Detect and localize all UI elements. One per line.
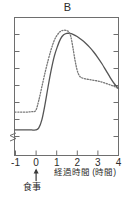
series-group — [15, 30, 119, 130]
y-axis-ticks-left — [15, 35, 20, 137]
x-tick-label-0: -1 — [9, 157, 23, 168]
meal-arrow-icon — [34, 169, 39, 182]
x-axis-ticks — [16, 151, 119, 156]
x-tick-label-1: 0 — [29, 157, 43, 168]
series-dotted-curve — [15, 30, 119, 112]
x-axis-title: 経過時間 (時間) — [54, 167, 116, 178]
chart-figure: B — [0, 0, 135, 209]
series-solid-curve — [15, 33, 119, 130]
meal-annotation-label: 食事 — [18, 182, 46, 192]
plot-frame — [15, 18, 119, 156]
